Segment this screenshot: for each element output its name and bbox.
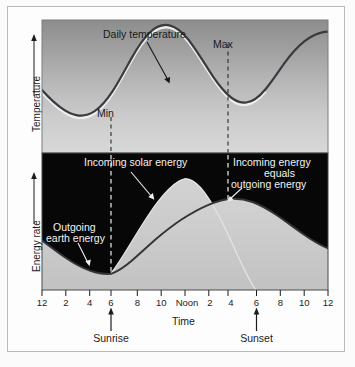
x-tick-label-9: 6 [254,297,259,308]
max-label: Max [213,39,233,50]
x-tick-label-6: Noon [176,297,199,308]
x-axis-label: Time [172,316,195,327]
min-label: Min [97,108,114,119]
balance-label-line3: outgoing energy [231,179,306,190]
sunrise-arrow [108,308,114,332]
sunrise-label: Sunrise [93,332,129,344]
x-tick-label-11: 10 [299,297,310,308]
x-tick-label-4: 8 [135,297,140,308]
x-tick-label-8: 4 [228,297,233,308]
sunset-label: Sunset [240,332,273,344]
outgoing-earth-energy-label-line2: earth energy [46,233,105,244]
temperature-axis-label: Temperature [31,76,42,132]
x-tick-label-2: 4 [87,297,92,308]
x-tick-label-7: 2 [207,297,212,308]
figure-root: Temperature Energy rate Daily temperatur… [0,0,355,367]
x-tick-label-3: 6 [108,297,113,308]
x-tick-label-12: 12 [323,297,334,308]
x-axis-ticks [42,290,328,296]
x-tick-label-5: 10 [156,297,167,308]
energy-rate-axis-arrow [31,172,37,224]
incoming-solar-energy-label: Incoming solar energy [84,157,187,168]
energy-rate-axis-label: Energy rate [31,220,42,272]
x-tick-label-1: 2 [63,297,68,308]
daily-temperature-label: Daily temperature [103,29,186,40]
x-tick-label-0: 12 [37,297,48,308]
sunset-arrow [254,308,260,332]
x-tick-label-10: 8 [278,297,283,308]
